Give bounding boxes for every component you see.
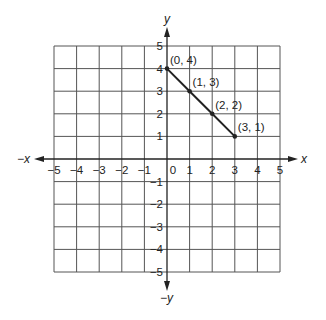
data-point xyxy=(165,66,170,71)
x-tick-label: 5 xyxy=(277,164,283,176)
y-tick-label: −3 xyxy=(150,221,163,233)
data-point xyxy=(233,134,238,139)
y-tick-label: 5 xyxy=(157,40,163,52)
data-series: (0, 4)(1, 3)(2, 2)(3, 1) xyxy=(165,54,265,139)
x-tick-label: 0 xyxy=(170,164,176,176)
x-tick-label: 1 xyxy=(186,164,192,176)
y-tick-label: 3 xyxy=(157,85,163,97)
x-tick-label: −4 xyxy=(70,164,84,176)
coordinate-plane-svg: x−xy−y −5−4−3−2−101234554321−1−2−3−4−5 (… xyxy=(0,0,326,320)
axes: x−xy−y xyxy=(17,12,308,305)
point-label: (3, 1) xyxy=(238,121,265,133)
x-tick-label: 2 xyxy=(209,164,215,176)
y-tick-label: −5 xyxy=(150,266,163,278)
x-tick-label: 4 xyxy=(254,164,261,176)
x-axis-arrow-left-icon xyxy=(34,156,44,162)
y-tick-label: −1 xyxy=(150,176,163,188)
x-tick-label: −2 xyxy=(115,164,128,176)
x-tick-label: −1 xyxy=(138,164,151,176)
y-tick-label: −4 xyxy=(150,243,164,255)
y-tick-label: 2 xyxy=(157,108,163,120)
y-axis-arrow-down-icon xyxy=(164,281,170,291)
point-label: (1, 3) xyxy=(193,76,220,88)
point-label: (0, 4) xyxy=(170,54,197,66)
x-tick-label: −5 xyxy=(47,164,60,176)
y-axis-arrow-up-icon xyxy=(164,27,170,37)
x-tick-label: −3 xyxy=(93,164,106,176)
y-tick-label: 4 xyxy=(157,63,164,75)
coordinate-plane: x−xy−y −5−4−3−2−101234554321−1−2−3−4−5 (… xyxy=(0,0,326,320)
data-point xyxy=(187,89,192,94)
y-tick-label: −2 xyxy=(150,198,163,210)
y-axis-label: y xyxy=(163,12,171,26)
negative-y-axis-label: −y xyxy=(160,291,174,305)
x-axis-arrow-right-icon xyxy=(288,156,298,162)
point-label: (2, 2) xyxy=(215,99,242,111)
y-tick-label: 1 xyxy=(157,130,163,142)
data-point xyxy=(210,112,215,117)
x-axis-label: x xyxy=(300,152,308,166)
negative-x-axis-label: −x xyxy=(17,152,31,166)
x-tick-label: 3 xyxy=(232,164,238,176)
